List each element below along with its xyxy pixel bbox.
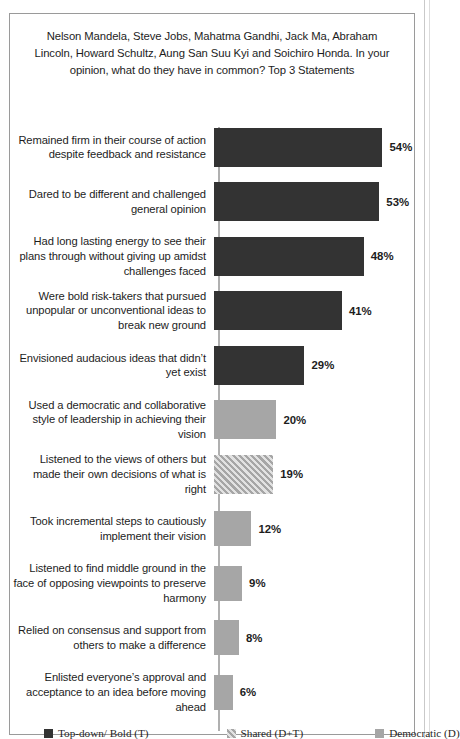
bar-track: 53% [212, 175, 414, 230]
bar-track: 19% [212, 447, 414, 502]
legend-label: Top-down/ Bold (T) [58, 727, 149, 739]
legend-item-shared[interactable]: Shared (D+T) [227, 727, 304, 739]
bar-track: 29% [212, 338, 414, 393]
legend-label: Democratic (D) [389, 727, 460, 739]
bar-track: 48% [212, 229, 414, 284]
bar-value-label: 19% [280, 468, 303, 480]
bar-row: Dared to be different and challenged gen… [10, 175, 414, 230]
bar-category-label: Listened to find middle ground in the fa… [10, 561, 212, 605]
page-edge-line-outer [424, 0, 425, 738]
bar-topdown[interactable] [214, 182, 379, 221]
bar-track: 9% [212, 556, 414, 611]
bar-value-label: 6% [240, 686, 256, 698]
bar-category-label: Remained firm in their course of action … [10, 133, 212, 162]
bar-value-label: 20% [283, 414, 306, 426]
legend-swatch-topdown-icon [44, 729, 53, 738]
bar-row: Were bold risk-takers that pursued unpop… [10, 284, 414, 339]
bar-row: Took incremental steps to cautiously imp… [10, 502, 414, 557]
bar-category-label: Were bold risk-takers that pursued unpop… [10, 289, 212, 333]
bar-row: Envisioned audacious ideas that didn’t y… [10, 338, 414, 393]
bar-value-label: 41% [349, 305, 372, 317]
chart-frame: Nelson Mandela, Steve Jobs, Mahatma Gand… [9, 13, 415, 735]
chart-title: Nelson Mandela, Steve Jobs, Mahatma Gand… [32, 28, 392, 79]
bar-topdown[interactable] [214, 291, 342, 330]
bar-category-label: Dared to be different and challenged gen… [10, 187, 212, 216]
bar-track: 6% [212, 665, 414, 720]
bar-category-label: Envisioned audacious ideas that didn’t y… [10, 351, 212, 380]
bar-row: Enlisted everyone’s approval and accepta… [10, 665, 414, 720]
plot-area: Remained firm in their course of action … [10, 119, 414, 731]
bar-track: 54% [212, 120, 414, 175]
bar-row: Listened to find middle ground in the fa… [10, 556, 414, 611]
page-edge-line-inner [429, 0, 430, 738]
bar-democratic[interactable] [214, 566, 242, 601]
bar-value-label: 48% [371, 250, 394, 262]
bar-value-label: 54% [389, 141, 412, 153]
bar-democratic[interactable] [214, 511, 251, 546]
bar-value-label: 12% [258, 523, 281, 535]
bar-topdown[interactable] [214, 237, 364, 276]
bar-row: Listened to the views of others but made… [10, 447, 414, 502]
bar-row: Remained firm in their course of action … [10, 120, 414, 175]
bar-value-label: 53% [386, 196, 409, 208]
bar-democratic[interactable] [214, 620, 239, 655]
bar-value-label: 8% [246, 632, 262, 644]
bar-track: 41% [212, 284, 414, 339]
bar-track: 8% [212, 611, 414, 666]
bar-track: 12% [212, 502, 414, 557]
bar-category-label: Took incremental steps to cautiously imp… [10, 514, 212, 543]
bar-category-label: Enlisted everyone’s approval and accepta… [10, 670, 212, 714]
bar-democratic[interactable] [214, 675, 233, 710]
legend-swatch-democratic-icon [375, 729, 384, 738]
legend-item-democratic[interactable]: Democratic (D) [375, 727, 460, 739]
bar-topdown[interactable] [214, 128, 382, 167]
bar-row: Had long lasting energy to see their pla… [10, 229, 414, 284]
bar-row: Used a democratic and collaborative styl… [10, 393, 414, 448]
chart-legend: Top-down/ Bold (T) Shared (D+T) Democrat… [20, 727, 416, 739]
bar-value-label: 9% [249, 577, 265, 589]
bar-row: Relied on consensus and support from oth… [10, 611, 414, 666]
bar-value-label: 29% [311, 359, 334, 371]
bar-shared[interactable] [214, 455, 273, 494]
legend-item-topdown[interactable]: Top-down/ Bold (T) [44, 727, 149, 739]
legend-label: Shared (D+T) [241, 727, 304, 739]
bar-topdown[interactable] [214, 346, 304, 385]
bar-track: 20% [212, 393, 414, 448]
bar-category-label: Listened to the views of others but made… [10, 452, 212, 496]
bar-category-label: Had long lasting energy to see their pla… [10, 234, 212, 278]
bar-category-label: Relied on consensus and support from oth… [10, 623, 212, 652]
bar-democratic[interactable] [214, 400, 276, 439]
legend-swatch-shared-icon [227, 729, 236, 738]
bar-category-label: Used a democratic and collaborative styl… [10, 398, 212, 442]
